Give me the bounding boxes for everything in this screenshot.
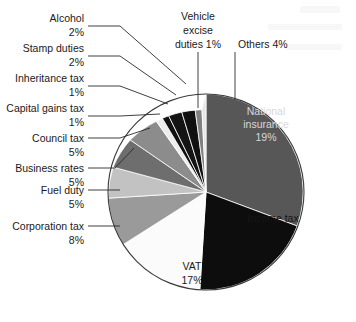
callout-inheritance-tax-line2: 1% (69, 86, 84, 98)
leader-line-stamp-duties (88, 56, 176, 95)
callout-vehicle-excise-line3: duties 1% (175, 38, 221, 50)
slice-label-national-insurance-line1: National (247, 105, 286, 117)
callout-council-tax-line1: Council tax (32, 132, 85, 144)
callout-corporation-tax-line1: Corporation tax (12, 220, 85, 232)
callout-alcohol: Alcohol 2% (50, 12, 84, 38)
callout-council-tax: Council tax 5% (32, 132, 85, 158)
callout-capital-gains-tax-line1: Capital gains tax (6, 102, 84, 114)
callout-fuel-duty: Fuel duty 5% (41, 184, 85, 210)
callout-council-tax-line2: 5% (69, 146, 84, 158)
slice-label-national-insurance-line3: 19% (255, 131, 276, 143)
callout-stamp-duties-line1: Stamp duties (23, 42, 84, 54)
callout-vehicle-excise-duties: Vehicle excise duties 1% (175, 10, 221, 50)
slice-label-income-tax: Income tax (247, 212, 299, 224)
callout-corporation-tax: Corporation tax 8% (12, 220, 85, 246)
callout-corporation-tax-line2: 8% (69, 234, 84, 246)
leader-line-inheritance-tax (88, 86, 168, 104)
slice-label-vat-line1: VAT (183, 260, 202, 272)
leader-line-alcohol (88, 26, 186, 84)
callout-stamp-duties-line2: 2% (69, 56, 84, 68)
slice-label-income-tax-line1: Income tax (247, 212, 299, 224)
callout-alcohol-line1: Alcohol (50, 12, 84, 24)
pie-chart-svg: Alcohol 2% Stamp duties 2% Inheritance t… (0, 0, 356, 322)
callout-fuel-duty-line1: Fuel duty (41, 184, 85, 196)
slice-label-vat-line2: 17% (181, 274, 202, 286)
callout-others: Others 4% (238, 38, 288, 50)
callout-business-rates-line1: Business rates (15, 162, 84, 174)
pie-chart-figure: Alcohol 2% Stamp duties 2% Inheritance t… (0, 0, 356, 322)
callout-fuel-duty-line2: 5% (69, 198, 84, 210)
slice-label-national-insurance-line2: insurance (243, 118, 289, 130)
callout-inheritance-tax-line1: Inheritance tax (15, 72, 85, 84)
callout-alcohol-line2: 2% (69, 26, 84, 38)
leader-line-capital-gains-tax (88, 114, 160, 116)
callout-others-line1: Others 4% (238, 38, 288, 50)
callout-inheritance-tax: Inheritance tax 1% (15, 72, 85, 98)
callout-capital-gains-tax: Capital gains tax 1% (6, 102, 84, 128)
callout-vehicle-excise-line1: Vehicle (181, 10, 215, 22)
callout-stamp-duties: Stamp duties 2% (23, 42, 84, 68)
callout-vehicle-excise-line2: excise (183, 24, 213, 36)
callout-capital-gains-tax-line2: 1% (69, 116, 84, 128)
